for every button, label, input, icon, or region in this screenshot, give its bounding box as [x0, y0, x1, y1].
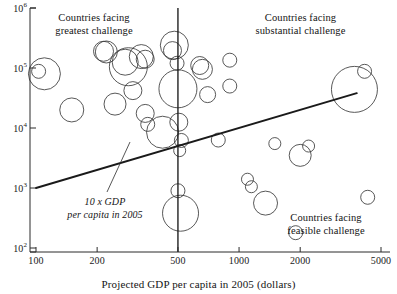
x-tick-label: 100 [28, 255, 43, 266]
trend-line [36, 93, 357, 188]
y-tick-label: 103 [0, 183, 27, 194]
data-bubble [241, 173, 253, 185]
data-bubble [192, 59, 212, 79]
y-tick-label: 106 [0, 3, 27, 14]
data-bubble [124, 82, 142, 100]
data-bubble [331, 66, 377, 112]
data-bubble [303, 140, 315, 152]
data-bubble [112, 49, 138, 75]
data-bubble [223, 53, 237, 67]
x-tick-label: 2000 [290, 255, 310, 266]
data-bubble [60, 98, 84, 122]
data-bubble [136, 104, 154, 122]
data-bubble [109, 48, 147, 86]
data-bubble [95, 41, 117, 63]
data-bubble [94, 41, 114, 61]
data-bubble [163, 195, 199, 231]
x-axis-title: Projected GDP per capita in 2005 (dollar… [0, 278, 397, 290]
data-bubble [104, 93, 126, 115]
zone-label-substantial-challenge: Countries facing substantial challenge [238, 12, 363, 37]
y-tick-label: 104 [0, 123, 27, 134]
x-tick-label: 500 [170, 255, 185, 266]
zone-label-greatest-challenge: Countries facing greatest challenge [38, 12, 150, 37]
data-bubble [361, 190, 375, 204]
y-axis-ticks [30, 8, 36, 248]
x-tick-label: 5000 [371, 255, 391, 266]
data-bubble [289, 144, 311, 166]
x-tick-label: 200 [89, 255, 104, 266]
data-bubble [170, 113, 188, 131]
trend-line-annotation: 10 x GDP per capita in 2005 [46, 196, 164, 221]
data-bubble [32, 64, 46, 78]
data-bubble [129, 45, 153, 69]
zone-label-feasible-challenge: Countries facing feasible challenge [268, 212, 384, 237]
annotation-leader-line [107, 142, 130, 192]
x-axis-ticks [36, 247, 381, 252]
x-tick-label: 1000 [229, 255, 249, 266]
data-bubble [136, 50, 154, 68]
data-bubble [200, 87, 216, 103]
scatter-chart: 102103104105106 100200500100020005000 Co… [0, 0, 397, 294]
plot-area [0, 0, 397, 294]
data-bubble [358, 64, 372, 78]
data-bubble [223, 79, 237, 93]
y-tick-label: 102 [0, 243, 27, 254]
data-bubble [245, 181, 257, 193]
data-bubble [147, 116, 179, 148]
data-bubble [269, 138, 281, 150]
y-tick-label: 105 [0, 63, 27, 74]
data-bubble [28, 58, 60, 90]
